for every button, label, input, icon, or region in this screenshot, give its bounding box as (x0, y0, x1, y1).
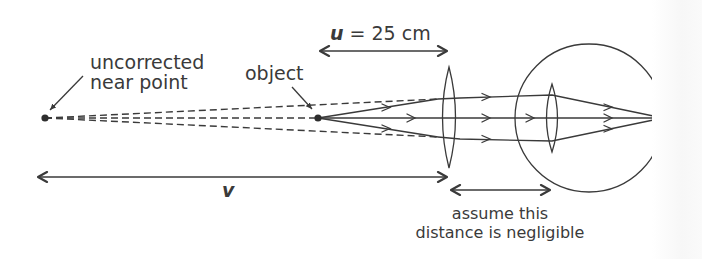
page-edge-shading (652, 0, 702, 259)
near-point-dot (41, 114, 48, 121)
eye-correction-ray-diagram: uncorrected near point object u = 25 cm … (0, 0, 702, 259)
u-value: = 25 cm (344, 22, 431, 44)
negligible-label-line2: distance is negligible (416, 223, 585, 242)
near-point-label-line1: uncorrected (90, 51, 204, 73)
u-label: u = 25 cm (330, 22, 431, 44)
object-label: object (245, 62, 304, 84)
object-dot (314, 114, 321, 121)
near-point-label: uncorrected near point (90, 51, 204, 93)
near-point-label-line2: near point (90, 71, 188, 93)
negligible-distance-label: assume this distance is negligible (416, 204, 585, 242)
ray-lower-refracted (438, 118, 663, 141)
u-symbol: u (330, 22, 344, 44)
negligible-label-line1: assume this (452, 204, 548, 223)
ray-upper-refracted (438, 95, 663, 118)
v-label: v (222, 179, 235, 201)
near-point-pointer-arrow (50, 76, 83, 110)
